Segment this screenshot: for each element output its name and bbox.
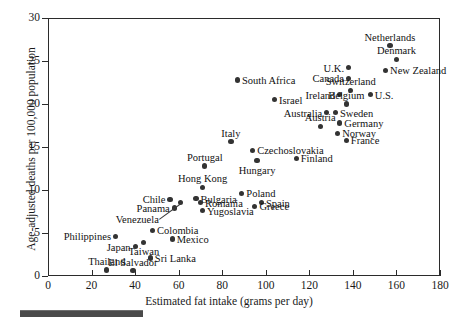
x-tick-mark — [440, 270, 441, 276]
x-tick-label: 140 — [331, 280, 375, 291]
y-tick-mark — [42, 104, 48, 105]
data-point-label: Mexico — [177, 234, 209, 245]
x-tick-mark — [92, 270, 93, 276]
x-tick-mark — [353, 270, 354, 276]
data-point-label: Denmark — [377, 45, 416, 56]
scatter-plot: 051015202530 020406080100120140160180 Ne… — [0, 0, 458, 325]
x-tick-mark — [179, 270, 180, 276]
data-point-label: Switzerland — [326, 76, 376, 87]
data-point — [130, 268, 135, 273]
data-point-label: Yugoslavia — [207, 205, 254, 216]
data-point-label: France — [351, 135, 380, 146]
data-point — [337, 120, 342, 125]
data-point-label: Greece — [259, 201, 289, 212]
data-point — [344, 138, 349, 143]
y-tick-mark — [42, 18, 48, 19]
data-point-label: Netherlands — [365, 31, 416, 42]
data-point-label: Finland — [301, 153, 333, 164]
data-point — [104, 267, 109, 272]
data-point-label: El Salvador — [108, 256, 157, 267]
data-point-label: South Africa — [242, 74, 295, 85]
data-point-label: Panama — [137, 203, 170, 214]
data-point-label: Italy — [221, 127, 240, 138]
data-point — [235, 77, 240, 82]
y-tick-mark — [42, 147, 48, 148]
data-point — [294, 156, 299, 161]
data-point-label: Portugal — [187, 151, 223, 162]
x-tick-mark — [396, 270, 397, 276]
x-tick-mark — [222, 270, 223, 276]
data-point — [335, 131, 340, 136]
y-tick-mark — [42, 276, 48, 277]
data-point-label: Austria — [305, 112, 336, 123]
data-point — [202, 163, 207, 168]
data-point — [344, 101, 349, 106]
data-point-label: Hungary — [239, 164, 276, 175]
data-point — [394, 57, 399, 62]
x-tick-mark — [309, 270, 310, 276]
y-tick-mark — [42, 233, 48, 234]
y-tick-mark — [42, 190, 48, 191]
data-point — [228, 139, 233, 144]
y-tick-mark — [42, 61, 48, 62]
data-point-label: Israel — [279, 94, 302, 105]
data-point — [318, 124, 323, 129]
x-tick-label: 180 — [418, 280, 458, 291]
data-point — [170, 236, 175, 241]
x-axis-label: Estimated fat intake (grams per day) — [0, 295, 458, 307]
x-tick-mark — [266, 270, 267, 276]
data-point — [368, 92, 373, 97]
x-tick-label: 40 — [113, 280, 157, 291]
data-point-label: Belgium — [328, 90, 364, 101]
x-tick-label: 80 — [200, 280, 244, 291]
data-point-label: U.S. — [375, 89, 394, 100]
x-tick-label: 20 — [70, 280, 114, 291]
data-point — [167, 197, 172, 202]
y-axis-label: Age-adjusted deaths per 100,000 populati… — [25, 14, 37, 284]
x-tick-mark — [48, 270, 49, 276]
data-point-label: Sri Lanka — [155, 252, 196, 263]
data-point-label: Japan — [107, 241, 131, 252]
data-point-label: Philippines — [64, 231, 111, 242]
x-tick-label: 100 — [244, 280, 288, 291]
bottom-bar-artifact — [20, 310, 143, 317]
data-point — [254, 158, 259, 163]
x-tick-label: 120 — [287, 280, 331, 291]
x-tick-label: 160 — [374, 280, 418, 291]
data-point-label: Venezuela — [116, 213, 159, 224]
x-tick-label: 60 — [157, 280, 201, 291]
data-point-label: New Zealand — [390, 65, 446, 76]
data-point-label: Hong Kong — [178, 173, 227, 184]
